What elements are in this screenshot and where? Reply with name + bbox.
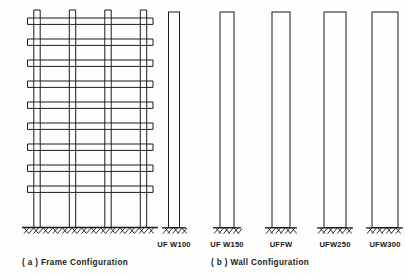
wall-2 bbox=[213, 12, 242, 234]
wall-label-ufw100: UF W100 bbox=[157, 240, 190, 249]
wall-4 bbox=[317, 12, 353, 234]
frame-joint-masks bbox=[35, 19, 146, 192]
frame-ground-hatch bbox=[24, 228, 154, 234]
wall-label-ufw250: UFW250 bbox=[319, 240, 350, 249]
caption-wall-configuration: ( b ) Wall Configuration bbox=[211, 258, 309, 267]
frame-diagram bbox=[22, 10, 158, 234]
wall-1 bbox=[162, 12, 187, 234]
frame-columns bbox=[34, 10, 147, 227]
structural-configurations-figure: UF W100 UF W150 UFFW UFW250 UFW300 ( a )… bbox=[0, 0, 405, 277]
wall-5 bbox=[366, 12, 403, 234]
wall-label-ufw300: UFW300 bbox=[369, 240, 400, 249]
wall-label-ufw150: UF W150 bbox=[210, 240, 243, 249]
wall-3 bbox=[265, 12, 297, 234]
frame-beams bbox=[28, 18, 154, 192]
wall-label-uffw: UFFW bbox=[270, 240, 293, 249]
figure-linework bbox=[0, 0, 405, 277]
caption-frame-configuration: ( a ) Frame Configuration bbox=[22, 258, 128, 267]
